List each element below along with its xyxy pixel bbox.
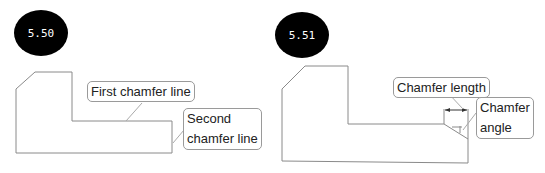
first-chamfer-leader — [126, 103, 142, 121]
callout-line-2: angle — [480, 118, 530, 138]
callout-line-2: chamfer line — [187, 129, 258, 149]
chamfer-angle-leader — [463, 113, 476, 130]
second-chamfer-line-callout: Second chamfer line — [183, 108, 262, 150]
callout-line-1: Second — [187, 109, 258, 129]
first-chamfer-line-callout: First chamfer line — [87, 81, 195, 102]
dimension-arrow-left — [445, 108, 450, 112]
callout-line-1: Chamfer — [480, 98, 530, 118]
figure-number-badge: 5.50 — [14, 10, 68, 56]
chamfer-length-callout: Chamfer length — [393, 77, 490, 98]
chamfer-angle-callout: Chamfer angle — [476, 97, 534, 139]
figure-number-badge: 5.51 — [275, 12, 329, 58]
